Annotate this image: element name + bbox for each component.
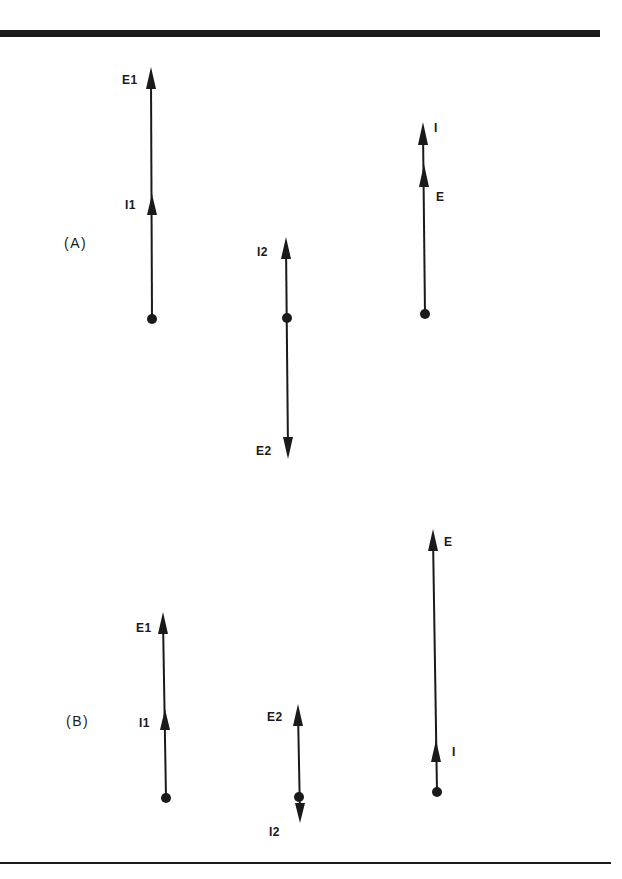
arrowhead-i-icon [418,122,428,145]
phasor-diagram-figure: (A) E1 I1 I2 E2 I E [0,0,622,879]
arrowhead-e2-icon [293,704,303,726]
origin-dot-icon [294,792,304,802]
origin-dot-icon [161,793,171,803]
origin-dot-icon [432,787,442,797]
vector-label-i1: I1 [139,716,150,730]
vector-line [163,620,166,798]
arrowhead-e2-icon [283,437,293,459]
arrowhead-e1-icon [146,67,156,89]
arrowhead-e1-icon [158,612,168,634]
diagram-a1: E1 I1 [122,67,157,324]
diagram-b2: E2 I2 [267,704,305,839]
diagram-b1: E1 I1 [136,612,171,803]
vector-label-e: E [444,535,453,549]
vector-label-i1: I1 [125,198,136,212]
panel-a: (A) E1 I1 I2 E2 I E [64,67,445,459]
arrowhead-i1-icon [160,709,170,730]
vector-label-e1: E1 [122,73,138,87]
panel-b: (B) E1 I1 E2 I2 E I [66,529,456,839]
vector-line [423,130,425,314]
origin-dot-icon [147,314,157,324]
arrowhead-e-icon [428,529,438,551]
diagram-b3: E I [428,529,456,797]
diagram-a3: I E [418,121,445,319]
vector-label-i2: I2 [257,245,268,259]
vector-label-e: E [436,190,445,204]
arrowhead-e-icon [419,164,429,187]
vector-label-i2: I2 [269,825,280,839]
diagram-a2: I2 E2 [256,237,293,459]
vector-label-e1: E1 [136,621,152,635]
arrowhead-i1-icon [147,194,157,215]
vector-label-e2: E2 [256,444,272,458]
vector-label-i: I [434,121,438,135]
vector-label-e2: E2 [267,710,283,724]
top-rule [0,30,600,37]
bottom-rule [0,862,611,864]
arrowhead-i-icon [431,740,441,762]
panel-b-label: (B) [66,713,89,729]
vector-label-i: I [452,745,456,759]
origin-dot-icon [420,309,430,319]
arrowhead-i2-icon [295,803,305,823]
panel-a-label: (A) [64,235,87,251]
origin-dot-icon [282,313,292,323]
arrowhead-i2-icon [281,237,291,259]
vector-line [286,245,288,450]
